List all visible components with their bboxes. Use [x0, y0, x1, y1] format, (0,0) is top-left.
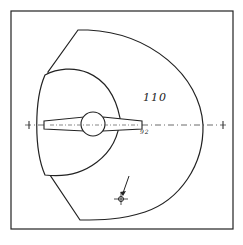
small-label: 92 [140, 128, 150, 135]
diagram-frame: 110 92 [0, 0, 243, 245]
center-hub [81, 112, 105, 136]
zone-label: 110 [143, 91, 167, 104]
diagram-canvas [0, 0, 243, 245]
right-arm [103, 117, 142, 131]
pointer-arrow [123, 176, 129, 193]
